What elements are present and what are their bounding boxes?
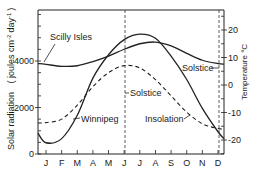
svg-text:M: M — [74, 158, 82, 168]
left-axis-labels: 020004000 — [14, 56, 34, 159]
insolation-label: Insolation — [145, 114, 184, 124]
svg-text:20: 20 — [228, 25, 238, 35]
scilly-isles-label: Scilly Isles — [50, 32, 93, 42]
svg-text:10: 10 — [228, 53, 238, 63]
svg-text:J: J — [138, 158, 143, 168]
insolation-pointer — [184, 115, 190, 119]
svg-text:J: J — [122, 158, 127, 168]
svg-text:O: O — [183, 158, 190, 168]
winnipeg-pointer — [73, 118, 80, 119]
scilly-isles-pointer — [44, 44, 55, 62]
x-axis-labels: JFMAMJJASOND — [44, 158, 222, 168]
svg-text:M: M — [105, 158, 113, 168]
svg-text:2000: 2000 — [14, 103, 34, 113]
june-solstice-label: Solstice — [130, 88, 162, 98]
winnipeg-label: Winnipeg — [81, 114, 119, 124]
svg-text:-20: -20 — [228, 135, 241, 145]
svg-text:F: F — [59, 158, 65, 168]
svg-text:-10: -10 — [228, 108, 241, 118]
svg-text:0: 0 — [29, 149, 34, 159]
climate-chart: 020004000 20100-10-20 JFMAMJJASOND Solar… — [0, 0, 255, 171]
x-axis-ticks — [46, 150, 218, 154]
december-solstice-label: Solstice — [182, 63, 214, 73]
svg-text:4000: 4000 — [14, 56, 34, 66]
svg-text:S: S — [168, 158, 174, 168]
svg-text:0: 0 — [228, 80, 233, 90]
left-axis-title: Solar radiation ( joules cm-2day-1) — [6, 8, 16, 150]
svg-text:J: J — [44, 158, 49, 168]
svg-text:A: A — [90, 158, 96, 168]
svg-text:D: D — [215, 158, 222, 168]
right-axis-title: Temperature °C — [240, 44, 249, 100]
svg-text:N: N — [199, 158, 206, 168]
svg-text:A: A — [152, 158, 158, 168]
